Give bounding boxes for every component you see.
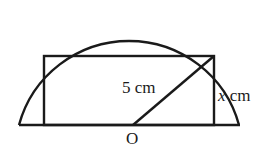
radius-label: 5 cm	[122, 79, 156, 96]
height-label: x cm	[218, 87, 251, 104]
height-variable: x	[218, 86, 226, 105]
centre-label: O	[126, 130, 138, 147]
diagram-canvas: 5 cm x cm O	[0, 0, 273, 156]
height-unit: cm	[226, 86, 251, 105]
